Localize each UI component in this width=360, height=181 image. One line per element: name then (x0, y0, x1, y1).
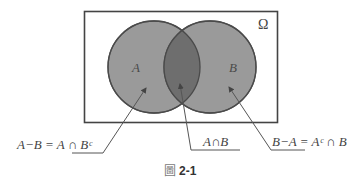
label-b-minus-a: B−A = Aᶜ ∩ B (272, 134, 347, 149)
caption-glyph: 圖 (164, 164, 176, 178)
venn-diagram: A B Ω A−B = A ∩ Bᶜ A∩B B−A = Aᶜ ∩ B (0, 0, 360, 181)
set-a-label: A (131, 60, 140, 75)
label-a-intersect-b: A∩B (202, 134, 228, 149)
figure-caption: 圖 2-1 (0, 161, 360, 178)
caption-number: 2-1 (179, 164, 196, 178)
universe-label: Ω (258, 17, 268, 32)
set-b-label: B (229, 60, 237, 75)
label-a-minus-b: A−B = A ∩ Bᶜ (16, 137, 93, 152)
